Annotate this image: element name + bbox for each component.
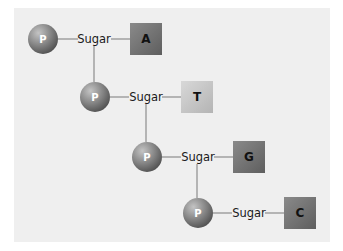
base-label: A [141,32,151,46]
phosphate-label: P [143,152,150,163]
sugar-label: Sugar [77,32,111,46]
phosphate-label: P [194,208,201,219]
base-label: G [244,150,254,164]
phosphate-label: P [91,92,98,103]
backbone-lines [58,39,284,213]
nucleotide-chain-diagram: P Sugar A P Sugar T P Sugar G P Sugar C [0,0,343,251]
sugar-label: Sugar [232,206,266,220]
sugar-label: Sugar [181,150,215,164]
nucleotide-3: P Sugar G [132,141,265,173]
sugar-label: Sugar [129,90,163,104]
base-label: T [193,90,202,104]
nucleotide-1: P Sugar A [28,23,162,55]
phosphate-label: P [39,34,46,45]
base-label: C [296,206,305,220]
nucleotide-4: P Sugar C [183,197,316,229]
